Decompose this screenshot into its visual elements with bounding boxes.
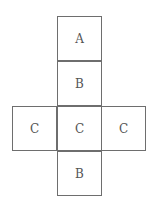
face-c-right: C <box>101 106 146 151</box>
face-a-top: A <box>57 16 102 61</box>
face-b-upper: B <box>57 61 102 106</box>
face-c-left: C <box>12 106 57 151</box>
face-label: C <box>30 122 39 136</box>
face-label: C <box>75 122 84 136</box>
face-label: A <box>75 32 84 46</box>
face-b-lower: B <box>57 151 102 196</box>
face-label: B <box>75 167 84 181</box>
face-label: B <box>75 77 84 91</box>
face-label: C <box>119 122 128 136</box>
face-c-center: C <box>57 106 102 151</box>
